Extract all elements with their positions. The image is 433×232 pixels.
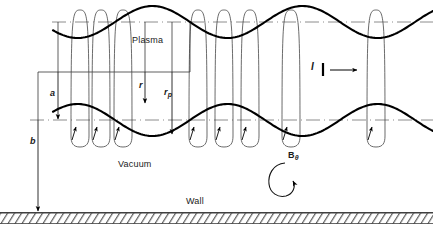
b-theta-base: B <box>288 150 295 160</box>
vacuum-region-label: Vacuum <box>118 159 152 169</box>
diagram-canvas <box>0 0 433 232</box>
field-loop-direction-arrow <box>72 127 76 140</box>
wall-hatching <box>0 214 433 224</box>
minor-radius-label-a: a <box>50 88 55 98</box>
radius-label-rp: rp <box>164 87 172 98</box>
wall <box>0 213 433 224</box>
wall-radius-label-b: b <box>30 136 36 146</box>
field-loop-direction-arrow <box>216 127 220 140</box>
field-loop-direction-arrow <box>190 127 194 140</box>
magnetic-field-loops <box>71 10 385 147</box>
b-theta-label: Bθ <box>288 150 299 161</box>
plasma-region-label: Plasma <box>132 35 163 45</box>
current-label: I <box>311 61 314 72</box>
field-loop <box>282 10 300 147</box>
field-loop <box>367 10 385 147</box>
field-loop <box>71 10 89 147</box>
wall-label: Wall <box>186 196 204 206</box>
field-loop-direction-arrow <box>93 127 97 140</box>
radius-label-r: r <box>139 80 143 90</box>
field-loop-direction-arrow <box>115 127 119 140</box>
field-loop-direction-arrow <box>242 127 246 140</box>
b-theta-circulation-arrow <box>269 163 294 196</box>
field-loop-direction-arrow <box>368 127 372 140</box>
field-loop <box>215 10 233 147</box>
b-theta-subscript: θ <box>295 154 299 161</box>
plasma-kink-diagram: Plasma Vacuum Wall I Bθ r rp a b <box>0 0 433 232</box>
rp-subscript: p <box>168 91 172 98</box>
current-arrow <box>323 63 357 76</box>
